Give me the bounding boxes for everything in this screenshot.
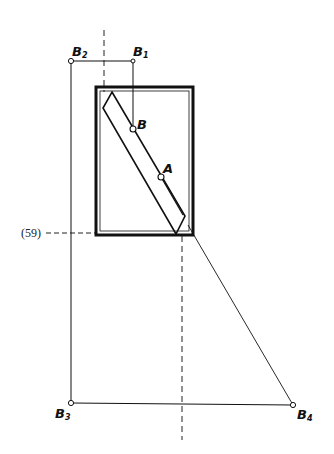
label-b2: B2: [72, 44, 88, 60]
label-b4: B4: [297, 407, 313, 423]
outer-frame: [96, 87, 193, 235]
point-b3-marker: [68, 400, 73, 405]
point-b4-marker: [290, 402, 295, 407]
label-b: B: [137, 117, 147, 132]
line-b3-b4: [71, 403, 293, 405]
line-a-strip: [161, 177, 183, 215]
label-b3: B3: [55, 406, 71, 422]
construction-diagram: B2 B1 B A B3 B4 (59): [0, 0, 334, 454]
label-b1: B1: [133, 44, 149, 60]
label-a: A: [162, 161, 173, 176]
line-frame-b4: [188, 225, 293, 405]
inner-frame: [100, 91, 189, 231]
point-b2-marker: [68, 58, 73, 63]
point-b1-marker: [131, 59, 135, 63]
dimension-label-59: (59): [21, 226, 41, 240]
point-b-marker: [130, 126, 136, 132]
